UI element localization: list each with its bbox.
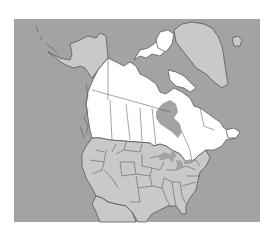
north-america-map [0, 0, 272, 234]
